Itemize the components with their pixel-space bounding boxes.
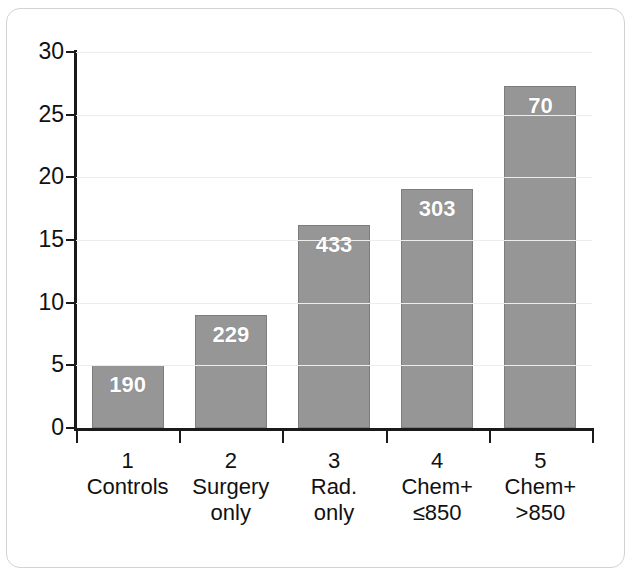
gridline	[76, 177, 592, 178]
x-axis-category-name-line1: Chem+	[475, 474, 605, 500]
y-axis-tick-label: 30	[24, 40, 64, 63]
x-axis-category-name-line2: >850	[475, 500, 605, 526]
gridline	[76, 365, 592, 366]
x-axis-tick	[179, 431, 181, 443]
y-axis-tick-label: 5	[24, 353, 64, 376]
x-axis-tick	[282, 431, 284, 443]
y-axis-tick-label: 20	[24, 165, 64, 188]
y-axis-tick-label: 0	[24, 416, 64, 439]
bar-value-label: 303	[402, 198, 472, 220]
bar-value-label: 433	[299, 234, 369, 256]
x-axis-tick	[489, 431, 491, 443]
y-axis-tick-label: 15	[24, 228, 64, 251]
x-axis-category-label: 5Chem+>850	[475, 448, 605, 526]
x-axis-tick	[592, 431, 594, 443]
bar[interactable]: 303	[401, 189, 473, 428]
bar-value-label: 70	[505, 95, 575, 117]
x-axis-tick	[386, 431, 388, 443]
gridline	[76, 240, 592, 241]
bar[interactable]: 229	[195, 315, 267, 428]
x-axis-category-number: 5	[475, 448, 605, 474]
x-axis-line	[74, 428, 594, 431]
x-axis-tick	[76, 431, 78, 443]
y-axis-tick-label: 25	[24, 103, 64, 126]
bar[interactable]: 70	[504, 86, 576, 428]
bar[interactable]: 190	[92, 365, 164, 428]
bar[interactable]: 433	[298, 225, 370, 428]
gridline	[76, 303, 592, 304]
y-axis-tick-label: 10	[24, 291, 64, 314]
bar-value-label: 190	[93, 374, 163, 396]
gridline	[76, 115, 592, 116]
gridline	[76, 52, 592, 53]
bar-value-label: 229	[196, 324, 266, 346]
